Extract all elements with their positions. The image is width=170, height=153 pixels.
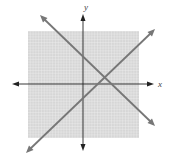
- x-axis-right-arrow-icon: [147, 82, 154, 87]
- grid-area: [28, 31, 139, 138]
- x-axis-label: x: [157, 79, 162, 89]
- y-axis-down-arrow-icon: [81, 144, 86, 151]
- coordinate-graph: x y: [0, 0, 170, 153]
- y-axis-label: y: [83, 2, 88, 12]
- y-axis-up-arrow-icon: [81, 14, 86, 21]
- x-axis-left-arrow-icon: [12, 82, 19, 87]
